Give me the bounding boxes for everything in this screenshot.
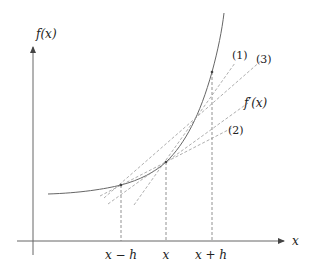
label-backward-difference: (2) bbox=[228, 124, 244, 137]
forward-difference-line bbox=[134, 63, 235, 205]
label-tangent: f′(x) bbox=[243, 96, 268, 110]
point-x-plus-h bbox=[211, 71, 214, 74]
tangent-line bbox=[108, 103, 248, 204]
point-x bbox=[165, 161, 168, 164]
label-central-difference: (3) bbox=[256, 53, 272, 66]
finite-difference-diagram: f(x) x x − h x x + h (1) (3) f′(x) (2) bbox=[0, 0, 314, 273]
label-forward-difference: (1) bbox=[232, 49, 248, 62]
x-axis-label: x bbox=[292, 234, 299, 248]
y-axis-label: f(x) bbox=[35, 27, 57, 41]
function-curve bbox=[48, 13, 224, 194]
tick-label-x-plus-h: x + h bbox=[195, 248, 227, 262]
tick-label-x: x bbox=[163, 248, 170, 262]
tick-label-x-minus-h: x − h bbox=[105, 248, 137, 262]
point-x-minus-h bbox=[120, 184, 123, 187]
